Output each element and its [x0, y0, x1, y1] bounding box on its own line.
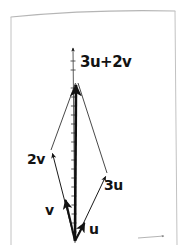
- page-border: [11, 11, 177, 245]
- vector-diagram-canvas: [0, 0, 186, 245]
- label-vector-2v: 2v: [27, 152, 45, 166]
- vector-sum: [75, 85, 76, 241]
- label-vector-sum: 3u+2v: [80, 55, 131, 70]
- label-vector-3u: 3u: [104, 178, 123, 192]
- label-vector-v: v: [45, 203, 54, 217]
- notebook-page: 3u+2v 2v 3u v u: [0, 0, 186, 245]
- vector-v: [66, 200, 76, 241]
- horizontal-axis: [138, 236, 164, 238]
- construction-lines: [51, 83, 107, 173]
- label-vector-u: u: [89, 222, 99, 236]
